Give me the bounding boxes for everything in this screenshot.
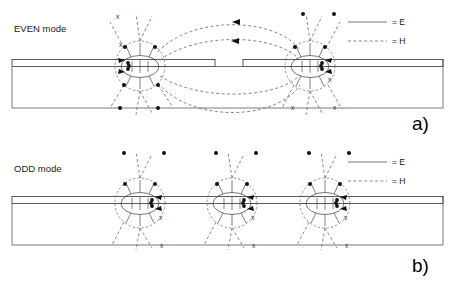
field-out-of-page-dot [122,83,126,87]
field-out-of-page-dot [245,182,249,186]
field-out-of-page-dot [307,151,311,155]
field-out-of-page-dot [323,45,327,49]
field-out-of-page-dot [123,182,127,186]
legend-label-e: = E [392,17,405,27]
field-out-of-page-dot [156,106,160,110]
legend-label-e: = E [392,157,405,167]
field-out-of-page-dot [308,182,312,186]
field-out-of-page-dot [123,45,127,49]
field-out-of-page-dot [215,182,219,186]
field-diagram-svg: EVEN mode [0,0,458,290]
field-out-of-page-dot [153,182,157,186]
field-out-of-page-dot [347,151,351,155]
field-out-of-page-dot [156,83,160,87]
panel-a-caption: a) [412,113,429,134]
field-out-of-page-dot [214,151,218,155]
panel-b-caption: b) [412,255,429,276]
field-out-of-page-dot [332,12,336,16]
panel-a-mode-label: EVEN mode [14,23,66,34]
panel-b-mode-label: ODD mode [14,163,62,174]
field-out-of-page-dot [118,106,122,110]
field-out-of-page-dot [153,45,157,49]
field-out-of-page-dot [293,45,297,49]
legend-label-h: = H [392,36,405,46]
field-out-of-page-dot [254,151,258,155]
figure-root: EVEN mode [0,0,458,290]
field-out-of-page-dot [122,151,126,155]
legend-label-h: = H [392,176,405,186]
field-out-of-page-dot [162,151,166,155]
field-out-of-page-dot [338,182,342,186]
field-out-of-page-dot [301,12,305,16]
